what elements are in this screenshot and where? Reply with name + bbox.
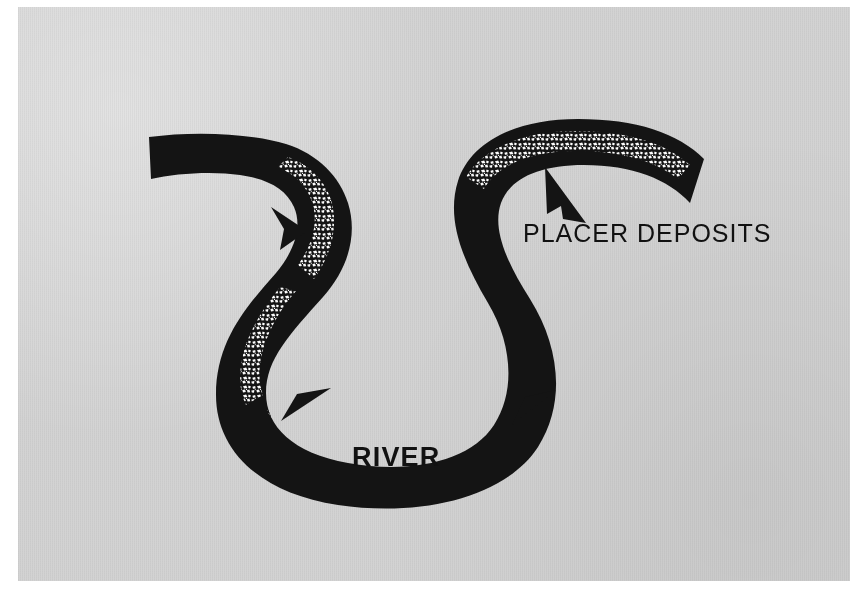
pointer-lower-left	[281, 388, 331, 421]
diagram-background: PLACER DEPOSITS RIVER	[18, 7, 850, 581]
figure-plate: PLACER DEPOSITS RIVER	[0, 0, 850, 591]
placer-deposits-label: PLACER DEPOSITS	[523, 221, 771, 246]
river-label: RIVER	[352, 444, 441, 471]
pointer-placer-label	[545, 167, 586, 223]
river-placer-diagram	[18, 7, 850, 581]
